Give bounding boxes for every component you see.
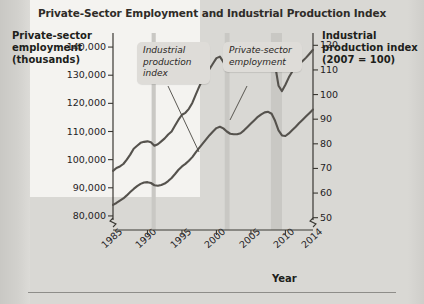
- annotation-industrial-production-index: Industrial production index: [137, 42, 210, 84]
- annotation-private-sector-employment: Private-sector employment: [223, 42, 302, 72]
- employment-series: [113, 110, 313, 205]
- leader-line-pse: [230, 86, 247, 120]
- chart-canvas: [0, 0, 424, 304]
- figure-container: Private-Sector Employment and Industrial…: [0, 0, 424, 304]
